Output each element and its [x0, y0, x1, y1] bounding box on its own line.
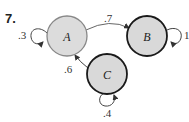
edge-c-a — [75, 55, 88, 68]
edge-label-a-b: .7 — [104, 13, 112, 24]
edge-a-b — [86, 23, 129, 30]
markov-chain-diagram — [0, 0, 189, 122]
edge-label-c-a: .6 — [64, 64, 72, 75]
node-b-label: B — [137, 31, 157, 43]
edge-label-b-b: 1 — [184, 30, 189, 41]
self-loop-c — [100, 93, 115, 106]
edge-label-a-a: .3 — [18, 30, 26, 41]
self-loop-a — [31, 29, 47, 44]
node-c-label: C — [97, 69, 117, 81]
edge-label-c-c: .4 — [103, 108, 111, 119]
node-a-label: A — [57, 31, 77, 43]
self-loop-b — [167, 28, 181, 43]
